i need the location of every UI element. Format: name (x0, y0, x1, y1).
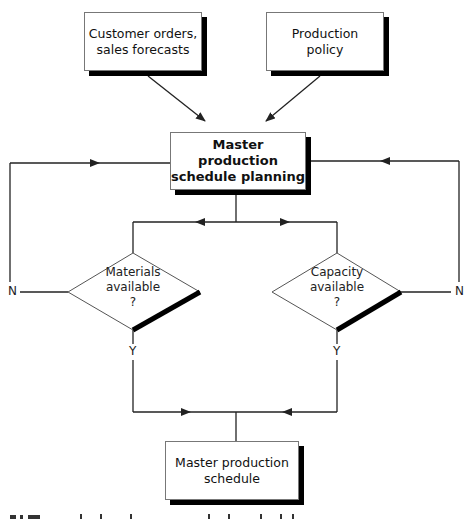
box-text: policy (292, 42, 359, 58)
box-text: Production (292, 26, 359, 42)
box-text: schedule (175, 471, 289, 487)
caption-truncated (10, 514, 294, 519)
materials-no-label: N (8, 284, 17, 298)
box-text: Master production (175, 455, 289, 471)
decision-text: available (93, 280, 173, 295)
box-text: sales forecasts (89, 42, 198, 58)
decision-text: Capacity (297, 265, 377, 280)
capacity-yes-label: Y (333, 344, 340, 358)
decision-text: ? (297, 295, 377, 310)
box-text: Customer orders, (89, 26, 198, 42)
capacity-no-label: N (455, 284, 464, 298)
arrow-orders-to-planning (148, 76, 205, 121)
materials-decision-label: Materials available ? (93, 265, 173, 310)
decision-text: available (297, 280, 377, 295)
decision-text: Materials (93, 265, 173, 280)
materials-yes-label: Y (129, 344, 136, 358)
mps-box: Master productionschedule (165, 441, 299, 500)
decision-text: ? (93, 295, 173, 310)
mps-planning-box: Master productionschedule planning (170, 132, 306, 190)
customer-orders-box: Customer orders,sales forecasts (84, 12, 202, 71)
box-text: schedule planning (171, 169, 305, 185)
box-text: Master production (171, 137, 305, 169)
capacity-decision-label: Capacity available ? (297, 265, 377, 310)
arrow-policy-to-planning (266, 76, 320, 121)
production-policy-box: Productionpolicy (266, 12, 384, 71)
